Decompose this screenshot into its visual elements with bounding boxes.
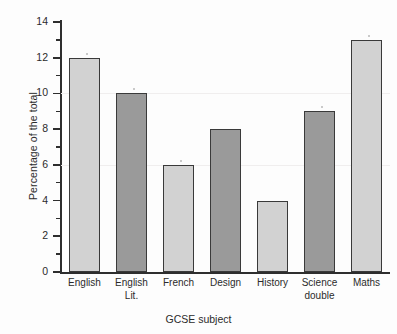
gridline (61, 93, 390, 94)
y-tick-label: 12 (8, 51, 48, 63)
y-tick-label: 6 (8, 158, 48, 170)
y-tick-label: 8 (8, 122, 48, 134)
x-axis-line (60, 272, 390, 274)
y-tick-major (53, 93, 61, 95)
x-tick-label: Maths (337, 277, 397, 290)
y-tick-label: 10 (8, 86, 48, 98)
y-tick-minor (56, 146, 61, 148)
x-axis-title: GCSE subject (0, 313, 397, 325)
bar (116, 93, 147, 272)
bar (257, 201, 288, 272)
y-tick-major (53, 271, 61, 273)
y-tick-major (53, 235, 61, 237)
y-tick-minor (56, 182, 61, 184)
y-tick-minor (56, 218, 61, 220)
y-tick-major (53, 21, 61, 23)
y-tick-minor (56, 111, 61, 113)
bar-chart-figure: Percentage of the total GCSE subject 024… (0, 0, 397, 334)
y-tick-major (53, 200, 61, 202)
y-tick-minor (56, 253, 61, 255)
scan-speck (86, 53, 88, 55)
y-tick-major (53, 128, 61, 130)
y-tick-major (53, 164, 61, 166)
y-tick-minor (56, 39, 61, 41)
bar (69, 58, 100, 272)
y-tick-label: 2 (8, 229, 48, 241)
bar (210, 129, 241, 272)
bar (163, 165, 194, 272)
y-tick-minor (56, 75, 61, 77)
y-axis-title: Percentage of the total (27, 46, 39, 246)
bar (304, 111, 335, 272)
scan-speck (133, 88, 135, 90)
scan-speck (368, 35, 370, 37)
y-tick-major (53, 57, 61, 59)
bar (351, 40, 382, 272)
y-tick-label: 4 (8, 194, 48, 206)
scan-speck (180, 160, 182, 162)
y-tick-label: 0 (8, 265, 48, 277)
scan-speck (321, 106, 323, 108)
y-tick-label: 14 (8, 15, 48, 27)
